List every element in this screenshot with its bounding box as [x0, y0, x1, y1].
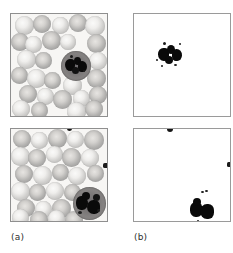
microscopy-figure: (a) (b): [0, 0, 233, 253]
mask-speck: [163, 42, 166, 45]
erythrocyte: [62, 148, 81, 167]
segmentation-mask-bottom: [134, 129, 230, 221]
erythrocyte: [84, 130, 104, 150]
granule: [70, 55, 73, 58]
erythrocyte: [31, 102, 48, 117]
erythrocyte: [30, 211, 48, 222]
panel-mask-bottom: [133, 128, 231, 222]
erythrocyte: [87, 34, 106, 53]
leukocyte: [73, 187, 106, 220]
border-artifact-dot: [67, 128, 72, 131]
erythrocyte: [89, 52, 107, 70]
erythrocyte: [48, 210, 65, 222]
border-artifact-mark: [227, 162, 231, 167]
erythrocyte: [60, 34, 76, 50]
border-artifact-mark: [103, 163, 108, 168]
erythrocyte: [67, 131, 84, 148]
nucleus-lobe: [82, 192, 90, 200]
erythrocyte: [11, 67, 28, 84]
erythrocyte: [85, 16, 105, 36]
mask-speck: [179, 43, 181, 45]
erythrocyte: [15, 165, 33, 183]
segmentation-mask-top: [134, 14, 230, 116]
mask-speck: [201, 191, 204, 193]
erythrocyte: [67, 102, 86, 117]
erythrocyte: [42, 31, 61, 50]
erythrocyte: [87, 165, 104, 182]
erythrocyte: [13, 130, 31, 148]
panel-original-top: [10, 13, 108, 117]
mask-speck: [156, 59, 158, 61]
erythrocyte: [31, 132, 48, 149]
erythrocyte: [48, 129, 67, 148]
granule: [97, 209, 100, 212]
blood-smear-image-bottom: [11, 129, 107, 221]
erythrocyte: [46, 182, 64, 200]
blood-smear-image-top: [11, 14, 107, 116]
erythrocyte: [68, 167, 86, 185]
mask-speck: [174, 64, 177, 66]
erythrocyte: [35, 52, 52, 69]
erythrocyte: [28, 149, 46, 167]
border-artifact-dot: [167, 128, 173, 132]
erythrocyte: [12, 209, 29, 222]
mask-speck: [161, 65, 163, 67]
caption-b: (b): [134, 233, 147, 242]
nucleus-lobe: [193, 198, 201, 206]
panel-mask-top: [133, 13, 231, 117]
nucleus-lobe: [165, 56, 173, 64]
nucleus-lobe: [72, 67, 79, 74]
granule: [78, 211, 82, 214]
erythrocyte: [33, 166, 52, 185]
nucleus-lobe: [93, 194, 100, 201]
erythrocyte: [12, 100, 30, 117]
caption-a: (a): [11, 233, 24, 242]
nucleus-lobe: [172, 49, 182, 61]
panel-original-bottom: [10, 128, 108, 222]
erythrocyte: [52, 164, 69, 181]
nucleus-lobe: [200, 204, 214, 219]
mask-speck: [197, 220, 199, 222]
leukocyte: [61, 51, 91, 81]
granule: [83, 70, 85, 72]
erythrocyte: [85, 100, 103, 117]
erythrocyte: [29, 184, 46, 201]
mask-speck: [205, 190, 208, 192]
erythrocyte: [44, 72, 61, 89]
erythrocyte: [46, 146, 63, 163]
